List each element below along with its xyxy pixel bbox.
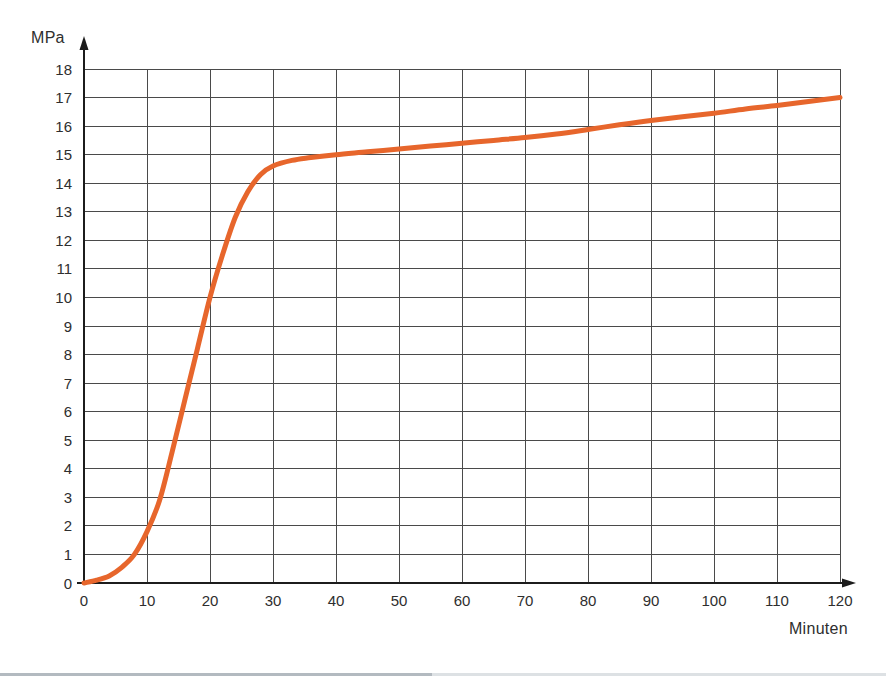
y-tick-label: 2 bbox=[64, 517, 72, 534]
page: MPa 012345678910111213141516171801020304… bbox=[0, 0, 886, 679]
y-tick-label: 18 bbox=[55, 61, 72, 78]
x-tick-label: 10 bbox=[139, 592, 156, 609]
x-tick-label: 100 bbox=[701, 592, 726, 609]
y-tick-label: 12 bbox=[55, 232, 72, 249]
pressure-time-line-chart: 0123456789101112131415161718010203040506… bbox=[0, 0, 886, 660]
y-tick-label: 13 bbox=[55, 203, 72, 220]
y-tick-label: 10 bbox=[55, 289, 72, 306]
y-tick-label: 9 bbox=[64, 318, 72, 335]
bottom-edge-artifact bbox=[0, 673, 886, 676]
y-tick-label: 11 bbox=[56, 260, 72, 277]
y-tick-label: 4 bbox=[64, 460, 72, 477]
y-tick-label: 17 bbox=[55, 89, 72, 106]
y-tick-label: 8 bbox=[64, 346, 72, 363]
y-tick-label: 1 bbox=[64, 546, 72, 563]
y-tick-label: 3 bbox=[64, 489, 72, 506]
x-tick-label: 90 bbox=[643, 592, 660, 609]
x-axis-unit-label: Minuten bbox=[782, 620, 848, 638]
x-tick-label: 30 bbox=[265, 592, 282, 609]
x-tick-label: 20 bbox=[202, 592, 219, 609]
x-axis-arrow-icon bbox=[842, 579, 856, 588]
x-tick-label: 70 bbox=[517, 592, 534, 609]
y-tick-label: 16 bbox=[55, 118, 72, 135]
x-tick-label: 120 bbox=[827, 592, 852, 609]
y-axis-arrow-icon bbox=[80, 36, 89, 50]
bottom-edge-artifact-dark-segment bbox=[0, 673, 432, 676]
y-tick-label: 7 bbox=[64, 375, 72, 392]
x-tick-label: 110 bbox=[765, 592, 789, 609]
x-tick-label: 40 bbox=[328, 592, 345, 609]
y-tick-label: 14 bbox=[55, 175, 72, 192]
y-tick-label: 0 bbox=[64, 575, 72, 592]
x-tick-label: 50 bbox=[391, 592, 408, 609]
y-tick-label: 6 bbox=[64, 403, 72, 420]
y-tick-label: 5 bbox=[64, 432, 72, 449]
y-tick-label: 15 bbox=[55, 146, 72, 163]
x-tick-label: 60 bbox=[454, 592, 471, 609]
x-tick-label: 0 bbox=[80, 592, 88, 609]
x-tick-label: 80 bbox=[580, 592, 597, 609]
